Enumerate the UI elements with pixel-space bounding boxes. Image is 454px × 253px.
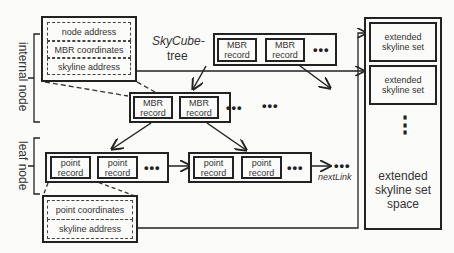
leaf1-ellipsis: ••• <box>144 163 161 173</box>
leaf-node-detail: point coordinates skyline address <box>42 195 138 243</box>
leaf2-point-record-2: point record <box>241 156 282 179</box>
skyline-space-label: extended skyline set space <box>368 169 438 211</box>
leaf-node-1: point record point record ••• <box>45 152 169 183</box>
internal-mbr-record-2: MBR record <box>179 96 219 119</box>
leaf-skyline-address-field: skyline address <box>47 219 133 239</box>
leaf2-ellipsis: ••• <box>287 163 304 173</box>
internal-mbr-record-1: MBR record <box>133 96 173 119</box>
internal-ellipsis: ••• <box>226 103 243 113</box>
vertical-ellipsis: ⋮ <box>394 112 416 138</box>
leaf-node-2: point record point record ••• <box>188 152 312 183</box>
root-node: MBR record MBR record ••• <box>213 33 337 66</box>
root-ellipsis: ••• <box>313 45 330 55</box>
mbr-coordinates-field: MBR coordinates <box>47 41 131 58</box>
internal-ellipsis-outer: ••• <box>262 101 279 111</box>
leaf1-point-record-2: point record <box>97 156 138 179</box>
extended-skyline-set-2: extended skyline set <box>369 65 437 105</box>
diagram-title: SkyCube- <box>152 34 205 48</box>
root-underline <box>213 70 354 71</box>
internal-node-detail: node address MBR coordinates skyline add… <box>41 16 137 82</box>
extended-skyline-set-space: extended skyline set extended skyline se… <box>364 17 442 230</box>
point-coordinates-field: point coordinates <box>47 200 133 220</box>
leaf1-point-record-1: point record <box>50 156 91 179</box>
leaf2-point-record-1: point record <box>193 156 234 179</box>
root-mbr-record-2: MBR record <box>265 38 305 62</box>
diagram-title-line2: tree <box>167 49 188 63</box>
next-link-ellipsis: ••• <box>334 161 351 171</box>
skyline-address-field: skyline address <box>47 58 131 75</box>
extended-skyline-set-1: extended skyline set <box>369 22 437 62</box>
internal-node: MBR record MBR record ••• <box>129 92 231 123</box>
root-mbr-record-1: MBR record <box>217 38 257 62</box>
next-link-label: nextLink <box>318 172 352 182</box>
node-address-field: node address <box>47 22 131 41</box>
leaf-node-label: leaf node <box>16 141 30 190</box>
internal-node-label: internal node <box>16 42 30 111</box>
